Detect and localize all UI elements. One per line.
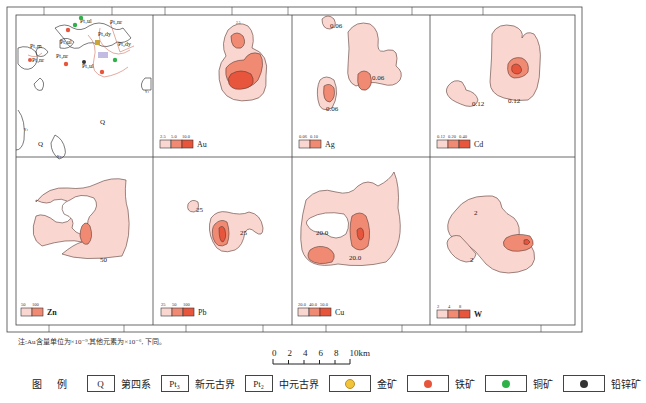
legend-threshold-label: 50 bbox=[172, 302, 177, 307]
contour-value-label: 0.12 bbox=[472, 100, 485, 108]
legend-symbol-iron-ore bbox=[407, 375, 449, 392]
svg-text:γ₄: γ₄ bbox=[145, 88, 149, 93]
anomaly-contour-level-3 bbox=[357, 228, 364, 240]
panel-legend-cu: 20.040.050.0Cu bbox=[298, 302, 344, 317]
bottom-coordinate-ticks bbox=[49, 325, 541, 332]
iron-ore-marker bbox=[100, 70, 104, 74]
legend-threshold-label: 0.40 bbox=[459, 134, 468, 139]
iron-ore-marker bbox=[28, 58, 32, 62]
map-legend: 图 例 Q 第四系 Pt₃ 新元古界 Pt₂ 中元古界 金矿 铁矿 铜矿 铅锌矿 bbox=[32, 375, 646, 392]
svg-text:Q: Q bbox=[38, 140, 43, 148]
svg-text:Pt₂dy: Pt₂dy bbox=[98, 31, 111, 37]
legend-swatch bbox=[459, 310, 470, 318]
scale-tick-label: 6 bbox=[319, 348, 335, 358]
panel-legend-ag: 0.060.10Ag bbox=[299, 134, 335, 149]
scale-tick-label: 4 bbox=[303, 348, 319, 358]
lead-zinc-ore-marker bbox=[82, 60, 86, 64]
svg-text:Q: Q bbox=[100, 118, 105, 126]
legend-threshold-label: 100 bbox=[183, 302, 191, 307]
contour-value-label: 0.06 bbox=[326, 105, 339, 113]
svg-text:Pt₂dy: Pt₂dy bbox=[118, 41, 131, 47]
legend-swatch bbox=[160, 140, 171, 148]
legend-swatch bbox=[437, 310, 448, 318]
legend-element-name: Cd bbox=[474, 140, 483, 149]
legend-swatch bbox=[172, 308, 183, 316]
gold-ore-icon bbox=[345, 379, 355, 389]
panel-legend-zn: 50100Zn bbox=[21, 302, 57, 317]
svg-text:γ₄: γ₄ bbox=[24, 126, 28, 131]
svg-text:Pt₁ul: Pt₁ul bbox=[60, 39, 72, 45]
panel-legend-au: 2.55.010.0Au bbox=[160, 134, 207, 149]
iron-ore-marker bbox=[66, 28, 70, 32]
unit-note: 注:Au含量单位为×10⁻⁹,其他元素为×10⁻⁶, 下同。 bbox=[18, 336, 166, 346]
contour-value-label: 2 bbox=[470, 256, 474, 264]
legend-threshold-label: 50 bbox=[21, 302, 26, 307]
panel-legend-w: 248W bbox=[437, 304, 482, 319]
legend-element-name: Au bbox=[197, 140, 207, 149]
geochemical-anomaly-map-figure: Pt₁ul Pt₂dy Pt₂nr Pt₂dy Pt₁ul Pt₁ul Pt₂m… bbox=[0, 0, 586, 340]
legend-swatch bbox=[161, 308, 172, 316]
panel-zn-anomaly bbox=[33, 179, 129, 259]
legend-swatch bbox=[310, 140, 321, 148]
contour-value-label: 0.06 bbox=[330, 22, 343, 30]
copper-ore-marker bbox=[79, 16, 83, 20]
legend-swatch bbox=[320, 308, 331, 316]
svg-text:Pt₃nr: Pt₃nr bbox=[32, 57, 44, 63]
anomaly-contour-level-2 bbox=[80, 223, 92, 244]
panel-au-anomaly: 2.5 bbox=[219, 21, 267, 101]
scale-tick-label: 8 bbox=[334, 348, 350, 358]
legend-threshold-label: 0.10 bbox=[310, 134, 319, 139]
legend-threshold-label: 25 bbox=[161, 302, 166, 307]
scale-bar: 0246810km bbox=[272, 348, 365, 368]
panel-ag-anomaly bbox=[317, 16, 401, 110]
legend-element-name: Cu bbox=[335, 308, 344, 317]
scale-tick-label: 0 bbox=[272, 348, 288, 358]
contour-value-label: 25 bbox=[196, 206, 204, 214]
copper-ore-icon bbox=[502, 380, 510, 388]
contour-value-label: 25 bbox=[240, 229, 248, 237]
svg-text:γ₄: γ₄ bbox=[57, 153, 61, 158]
panel-w-anomaly bbox=[447, 196, 535, 273]
svg-text:Pt₃nr: Pt₃nr bbox=[56, 53, 68, 59]
anomaly-contour-level-2 bbox=[358, 71, 372, 90]
anomaly-contour-level-3 bbox=[228, 71, 253, 89]
legend-swatch bbox=[437, 140, 448, 148]
legend-swatch bbox=[21, 308, 32, 316]
copper-ore-marker bbox=[113, 58, 117, 62]
legend-threshold-label: 4 bbox=[448, 304, 451, 309]
legend-label-lead-zinc-ore: 铅锌矿 bbox=[611, 376, 641, 391]
legend-swatch bbox=[32, 308, 43, 316]
legend-swatch bbox=[448, 140, 459, 148]
panel-cu-anomaly bbox=[301, 172, 401, 266]
legend-symbol-neoproterozoic: Pt₃ bbox=[161, 375, 189, 392]
legend-label-quaternary: 第四系 bbox=[121, 376, 151, 391]
legend-threshold-label: 100 bbox=[32, 302, 40, 307]
legend-element-name: Pb bbox=[198, 308, 206, 317]
scale-bar-line bbox=[272, 358, 362, 366]
iron-ore-icon bbox=[424, 380, 432, 388]
contour-value-label: 20.0 bbox=[349, 254, 362, 262]
legend-label-mesoproterozoic: 中元古界 bbox=[279, 376, 319, 391]
legend-element-name: W bbox=[474, 310, 482, 319]
iron-ore-marker bbox=[64, 62, 68, 66]
legend-threshold-label: 10.0 bbox=[182, 134, 191, 139]
legend-label-neoproterozoic: 新元古界 bbox=[195, 376, 235, 391]
legend-threshold-label: 40.0 bbox=[309, 302, 318, 307]
panel-cd-anomaly bbox=[446, 25, 540, 106]
svg-text:2.5: 2.5 bbox=[236, 21, 241, 25]
legend-threshold-label: 0.06 bbox=[299, 134, 308, 139]
panel-legend-pb: 2550100Pb bbox=[161, 302, 206, 317]
legend-threshold-label: 20.0 bbox=[298, 302, 307, 307]
contour-value-label: 0.12 bbox=[508, 97, 521, 105]
panel-legend-cd: 0.120.200.40Cd bbox=[437, 134, 483, 149]
legend-symbol-gold-ore bbox=[329, 375, 371, 392]
legend-swatch bbox=[298, 308, 309, 316]
anomaly-contour-level-2 bbox=[324, 84, 335, 102]
contour-value-label: 50 bbox=[100, 256, 108, 264]
legend-label-copper-ore: 铜矿 bbox=[533, 376, 553, 391]
legend-swatch bbox=[459, 140, 470, 148]
legend-label-gold-ore: 金矿 bbox=[377, 376, 397, 391]
svg-text:Pt₂m: Pt₂m bbox=[30, 43, 42, 49]
legend-swatch bbox=[448, 310, 459, 318]
legend-threshold-label: 50.0 bbox=[320, 302, 329, 307]
